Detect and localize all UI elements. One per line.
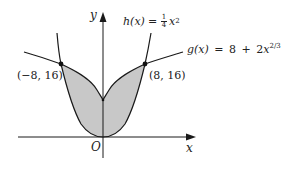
g-exp: 2/3 [269, 42, 280, 50]
x-axis-label: x [186, 142, 193, 154]
h-frac-num: 1 [162, 14, 166, 21]
x-axis-arrow-icon [186, 134, 196, 141]
g-equals: = [214, 43, 223, 56]
h-exp: 2 [175, 18, 179, 25]
origin-label: O [91, 141, 101, 153]
h-frac-den: 4 [162, 22, 166, 29]
h-lhs: h(x) [123, 16, 145, 27]
h-fraction: 1 4 [161, 14, 167, 29]
g-lhs: g(x) [187, 43, 209, 56]
y-axis-arrow-icon [100, 12, 107, 22]
g-const: 8 [229, 43, 236, 56]
h-equals: = [148, 16, 157, 27]
point-left-intersection [59, 62, 64, 67]
y-axis-label: y [90, 9, 97, 21]
g-equation-label: g(x) = 8 + 2x2/3 [187, 43, 281, 55]
point-right-label: (8, 16) [149, 70, 186, 81]
g-plus: + [242, 43, 251, 56]
h-equation-label: h(x) = 1 4 x2 [123, 14, 180, 29]
point-right-intersection [143, 62, 148, 67]
point-left-label: (−8, 16) [17, 70, 63, 81]
point-cusp [102, 99, 105, 102]
